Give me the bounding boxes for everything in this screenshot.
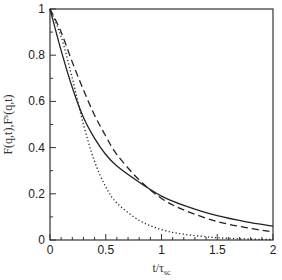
x-tick-label: 0.5	[97, 243, 114, 257]
y-tick-label: 0.2	[28, 187, 45, 201]
series-solid-line	[50, 9, 273, 226]
x-tick-label: 1.5	[209, 243, 226, 257]
x-tick-label: 2	[270, 243, 277, 257]
chart: 00.511.5200.20.40.60.81 t/τsc F(q,t),Fs(…	[0, 0, 282, 280]
series-dashed-line	[50, 9, 273, 232]
x-axis-label: t/τsc	[152, 261, 171, 277]
y-tick-label: 0	[38, 233, 45, 247]
tick-labels: 00.511.5200.20.40.60.81	[28, 2, 276, 257]
x-tick-label: 1	[158, 243, 165, 257]
plot-frame	[50, 9, 273, 240]
axis-ticks	[50, 9, 273, 240]
series-dotted-line	[50, 9, 273, 240]
y-axis-label: F(q,t),Fs(q,t)	[1, 94, 15, 154]
y-tick-label: 0.6	[28, 94, 45, 108]
data-series	[50, 9, 273, 240]
y-tick-label: 1	[38, 2, 45, 16]
y-tick-label: 0.4	[28, 141, 45, 155]
y-tick-label: 0.8	[28, 48, 45, 62]
x-tick-label: 0	[47, 243, 54, 257]
